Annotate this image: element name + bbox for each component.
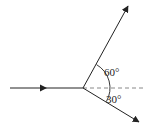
incident-arrow-icon xyxy=(40,85,47,92)
angle-label-30: 30° xyxy=(106,93,121,105)
ray-diagram: 60° 30° xyxy=(0,0,153,132)
angle-label-60: 60° xyxy=(104,66,119,78)
